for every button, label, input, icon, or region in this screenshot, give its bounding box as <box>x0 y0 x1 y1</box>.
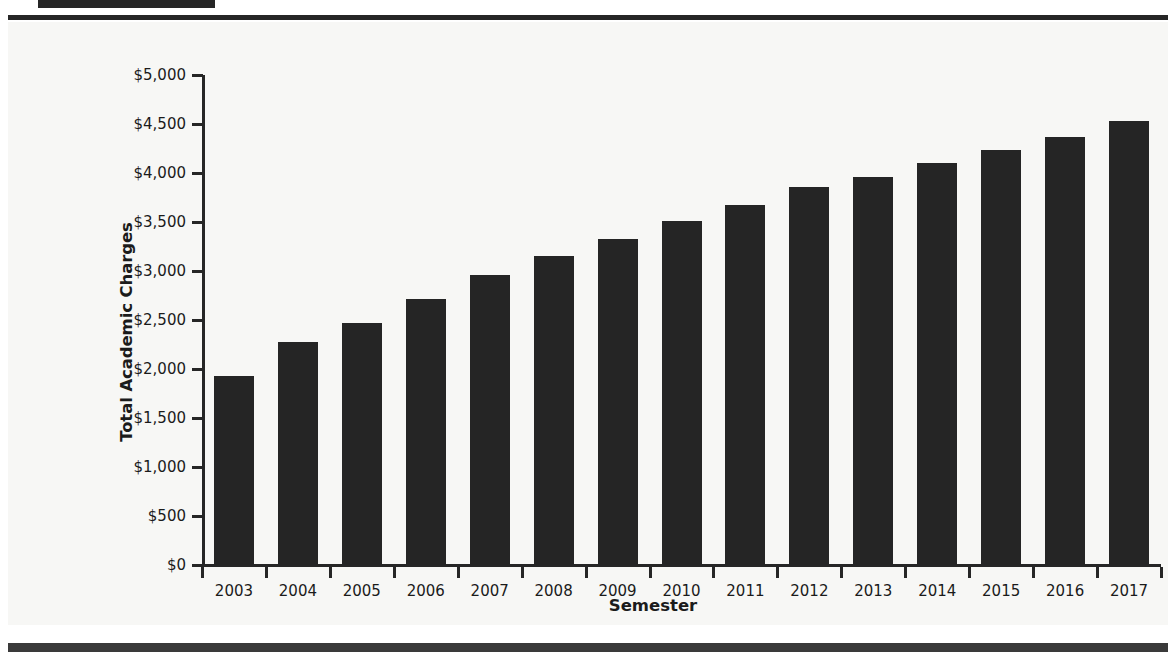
x-tick-mark <box>840 567 843 578</box>
bar-2015 <box>981 150 1021 565</box>
y-tick-label: $3,500 <box>96 213 186 231</box>
bar-2012 <box>789 187 829 565</box>
y-tick-mark <box>192 270 203 273</box>
bar-2003 <box>214 376 254 565</box>
x-tick-mark <box>776 567 779 578</box>
y-tick-label: $3,000 <box>96 262 186 280</box>
x-tick-mark <box>265 567 268 578</box>
bar-2010 <box>662 221 702 565</box>
bar-2009 <box>598 239 638 565</box>
x-tick-mark <box>1160 567 1163 578</box>
bar-2013 <box>853 177 893 565</box>
x-axis-title: Semester <box>8 596 1168 615</box>
x-tick-mark <box>904 567 907 578</box>
bar-2017 <box>1109 121 1149 565</box>
bar-2016 <box>1045 137 1085 565</box>
y-tick-mark <box>192 123 203 126</box>
y-tick-mark <box>192 74 203 77</box>
y-tick-mark <box>192 319 203 322</box>
bar-2006 <box>406 299 446 565</box>
y-tick-label: $5,000 <box>96 66 186 84</box>
bar-2004 <box>278 342 318 565</box>
x-tick-mark <box>329 567 332 578</box>
x-tick-mark <box>712 567 715 578</box>
x-tick-mark <box>649 567 652 578</box>
x-tick-mark <box>1096 567 1099 578</box>
y-tick-label: $1,000 <box>96 458 186 476</box>
x-tick-mark <box>968 567 971 578</box>
bar-2011 <box>725 205 765 565</box>
header-divider-rule <box>8 15 1168 20</box>
y-tick-label: $4,500 <box>96 115 186 133</box>
bar-chart-plot-area: Total Academic Charges $0$500$1,000$1,50… <box>8 22 1168 625</box>
y-tick-label: $4,000 <box>96 164 186 182</box>
header-tab-block <box>38 0 215 8</box>
x-tick-mark <box>521 567 524 578</box>
y-tick-label: $1,500 <box>96 409 186 427</box>
x-tick-mark <box>1032 567 1035 578</box>
x-tick-mark <box>393 567 396 578</box>
x-tick-mark <box>201 567 204 578</box>
y-tick-label: $0 <box>96 556 186 574</box>
y-tick-label: $2,500 <box>96 311 186 329</box>
bar-2014 <box>917 163 957 565</box>
y-tick-mark <box>192 417 203 420</box>
bar-2008 <box>534 256 574 565</box>
footer-divider-rule <box>8 643 1168 652</box>
page-header-band <box>0 0 1176 22</box>
y-tick-mark <box>192 221 203 224</box>
y-tick-mark <box>192 368 203 371</box>
y-tick-mark <box>192 172 203 175</box>
y-tick-mark <box>192 466 203 469</box>
bar-2005 <box>342 323 382 565</box>
y-tick-label: $500 <box>96 507 186 525</box>
x-tick-mark <box>457 567 460 578</box>
y-tick-label: $2,000 <box>96 360 186 378</box>
chart-panel: Total Academic Charges $0$500$1,000$1,50… <box>8 22 1168 625</box>
bar-2007 <box>470 275 510 565</box>
x-tick-mark <box>585 567 588 578</box>
y-tick-mark <box>192 515 203 518</box>
